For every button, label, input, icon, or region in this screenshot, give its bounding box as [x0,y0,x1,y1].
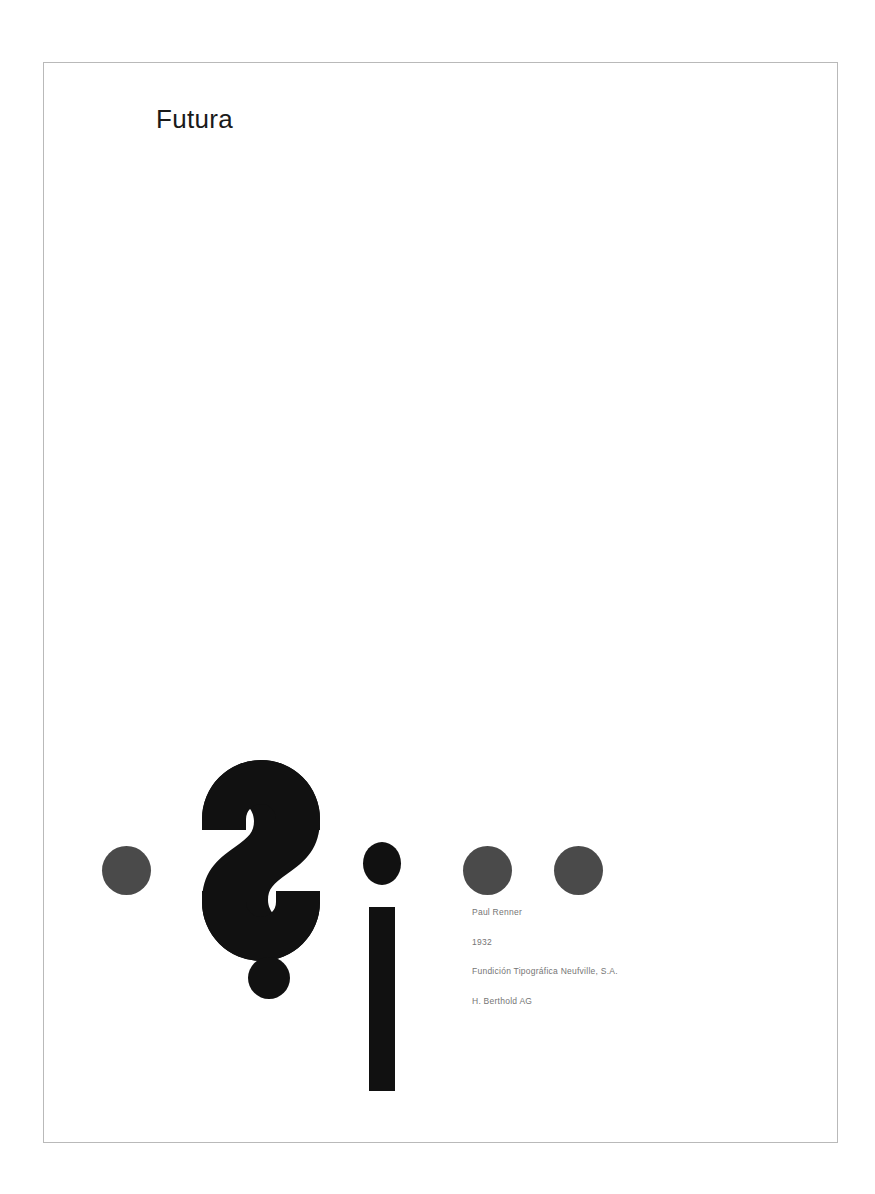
metadata-year: 1932 [472,938,802,947]
metadata-block: Paul Renner 1932 Fundición Tipográfica N… [472,908,802,1005]
ornament-dot-left [102,846,151,895]
ornament-dot-middle [463,846,512,895]
metadata-designer: Paul Renner [472,908,802,917]
metadata-foundry-2: H. Berthold AG [472,997,802,1006]
glyph-i-stem [369,907,395,1091]
ornament-dot-right [554,846,603,895]
glyph-i-tittle [363,842,401,885]
metadata-foundry-1: Fundición Tipográfica Neufville, S.A. [472,967,802,976]
poster-sheet: Futura Paul Renner 1932 Fundición Tipogr… [43,62,838,1143]
glyph-lowercase-i [361,842,401,1092]
glyph-inverted-question-mark [202,756,320,1001]
